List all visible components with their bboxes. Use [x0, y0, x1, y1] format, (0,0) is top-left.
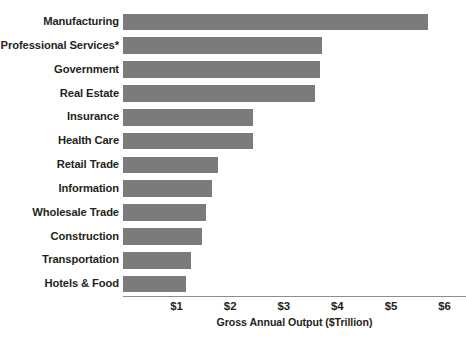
bar [123, 85, 315, 102]
bar-chart: ManufacturingProfessional Services*Gover… [0, 0, 466, 341]
bar-row: Wholesale Trade [123, 201, 466, 225]
bar-row: Real Estate [123, 82, 466, 106]
x-tick-label: $4 [317, 300, 357, 312]
bar [123, 180, 212, 197]
bar-row: Insurance [123, 105, 466, 129]
category-label: Hotels & Food [44, 272, 123, 296]
x-axis-line [123, 296, 466, 297]
bar [123, 133, 253, 150]
bar-row: Retail Trade [123, 153, 466, 177]
x-tick-label: $6 [425, 300, 465, 312]
x-axis-title: Gross Annual Output ($Trillion) [123, 316, 466, 328]
bar-row: Health Care [123, 129, 466, 153]
bar-row: Transportation [123, 248, 466, 272]
category-label: Manufacturing [43, 10, 123, 34]
category-label: Construction [51, 225, 123, 249]
category-label: Real Estate [60, 82, 123, 106]
bar [123, 61, 320, 78]
bar [123, 157, 218, 174]
bar-row: Hotels & Food [123, 272, 466, 296]
bar-row: Professional Services* [123, 34, 466, 58]
bar [123, 252, 191, 269]
category-label: Retail Trade [57, 153, 123, 177]
category-label: Wholesale Trade [32, 201, 123, 225]
bar [123, 109, 253, 126]
category-label: Transportation [42, 248, 123, 272]
plot-area: ManufacturingProfessional Services*Gover… [123, 10, 466, 296]
bar [123, 204, 206, 221]
bar-row: Manufacturing [123, 10, 466, 34]
category-label: Insurance [67, 105, 123, 129]
x-tick-label: $3 [264, 300, 304, 312]
category-label: Government [54, 58, 123, 82]
bar [123, 228, 202, 245]
category-label: Information [59, 177, 123, 201]
x-tick-label: $1 [157, 300, 197, 312]
bar-row: Information [123, 177, 466, 201]
bar-row: Government [123, 58, 466, 82]
x-tick-label: $5 [371, 300, 411, 312]
category-label: Professional Services* [1, 34, 123, 58]
bar [123, 276, 186, 293]
category-label: Health Care [58, 129, 123, 153]
bar [123, 37, 322, 54]
bar [123, 14, 428, 31]
x-tick-label: $2 [210, 300, 250, 312]
bar-row: Construction [123, 225, 466, 249]
